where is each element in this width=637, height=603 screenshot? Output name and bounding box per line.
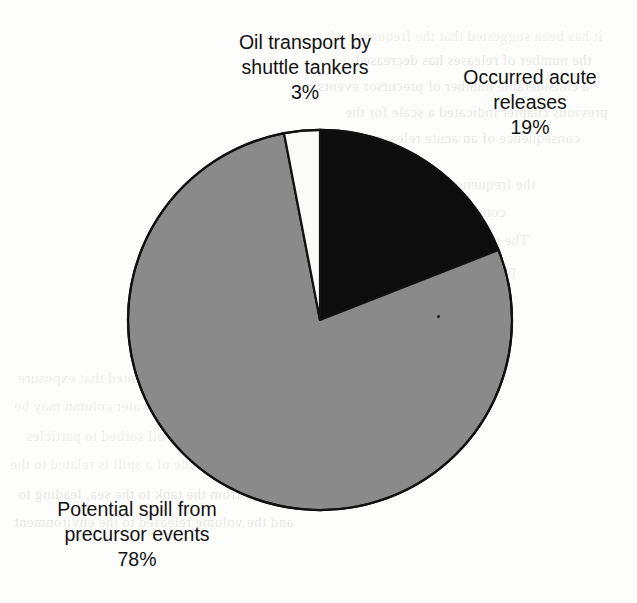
pie-label-line-2: shuttle tankers xyxy=(242,56,369,78)
pie-label-oil-transport-shuttle-tankers: Oil transport by shuttle tankers 3% xyxy=(204,30,406,105)
pie-label-line-1: Oil transport by xyxy=(239,31,371,53)
pie-label-percent: 19% xyxy=(435,115,625,140)
pie-label-line-2: releases xyxy=(493,91,567,113)
pie-chart: Oil transport by shuttle tankers 3% Occu… xyxy=(0,0,637,603)
pie-label-occurred-acute-releases: Occurred acute releases 19% xyxy=(435,65,625,140)
scan-speck-artifact xyxy=(437,315,440,318)
pie-label-line-1: Occurred acute xyxy=(463,66,596,88)
pie-label-potential-spill-precursor-events: Potential spill from precursor events 78… xyxy=(32,497,242,572)
pie-label-percent: 3% xyxy=(204,80,406,105)
pie-label-line-2: precursor events xyxy=(64,523,209,545)
pie-label-line-1: Potential spill from xyxy=(57,498,216,520)
pie-label-percent: 78% xyxy=(32,547,242,572)
